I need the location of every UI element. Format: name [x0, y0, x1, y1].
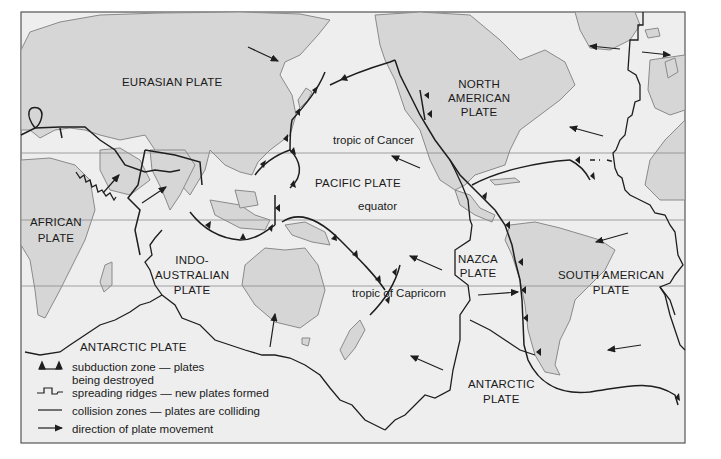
legend-text: spreading ridges — new plates formed: [72, 387, 269, 399]
legend-text: collision zones — plates are colliding: [72, 405, 260, 417]
spreading-ridge-symbol-icon: [38, 387, 72, 399]
label-tropic-of-cancer: tropic of Cancer: [333, 134, 414, 146]
movement-arrow-icon: [38, 423, 72, 435]
plate-label-antarctic-west: ANTARCTIC PLATE: [80, 340, 187, 354]
plate-label-north-american: NORTH AMERICAN PLATE: [448, 77, 510, 119]
label-tropic-of-capricorn: tropic of Capricorn: [352, 287, 446, 299]
legend-text: being destroyed: [72, 374, 154, 386]
map-legend: subduction zone — plates being destroyed…: [38, 360, 269, 435]
plate-label-indo-australian: INDO- AUSTRALIAN PLATE: [155, 253, 229, 298]
collision-zone-symbol-icon: [38, 405, 72, 417]
land-tasmania: [302, 338, 310, 346]
land-iceland: [645, 28, 660, 38]
legend-spacer: [38, 374, 72, 386]
plate-label-nazca: NAZCA PLATE: [458, 252, 498, 280]
legend-item-arrow: direction of plate movement: [38, 422, 269, 435]
plate-label-pacific: PACIFIC PLATE: [315, 176, 401, 190]
plate-label-eurasian: EURASIAN PLATE: [122, 75, 222, 89]
plate-label-antarctic-east: ANTARCTIC PLATE: [468, 377, 535, 407]
legend-item-collision: collision zones — plates are colliding: [38, 404, 269, 417]
legend-text: subduction zone — plates: [72, 361, 204, 373]
legend-text: direction of plate movement: [72, 423, 213, 435]
label-equator: equator: [358, 200, 397, 212]
plate-label-south-american: SOUTH AMERICAN PLATE: [558, 268, 664, 298]
plate-label-african: AFRICAN PLATE: [30, 214, 82, 246]
legend-item-spreading: spreading ridges — new plates formed: [38, 386, 269, 399]
subduction-symbol-icon: [38, 361, 72, 373]
legend-item-subduction: subduction zone — plates: [38, 360, 269, 373]
legend-item-subduction-cont: being destroyed: [38, 373, 269, 386]
